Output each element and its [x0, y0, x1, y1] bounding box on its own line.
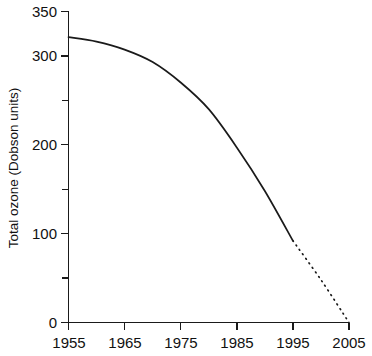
x-axis-tick-labels: 1955 1965 1975 1985 1995 2005	[52, 334, 365, 351]
observed-ozone-line	[69, 37, 293, 241]
y-axis-major-ticks	[61, 11, 69, 322]
y-tick-label-350: 350	[32, 3, 57, 20]
y-tick-label-100: 100	[32, 225, 57, 242]
y-tick-label-0: 0	[49, 314, 57, 331]
projected-ozone-line	[293, 241, 349, 323]
x-axis-ticks	[69, 323, 350, 331]
x-tick-label-1975: 1975	[164, 334, 197, 351]
y-tick-label-300: 300	[32, 47, 57, 64]
x-tick-label-1985: 1985	[220, 334, 253, 351]
y-axis-minor-ticks	[62, 100, 69, 278]
ozone-line-chart-figure: 0 100 200 300 350 1955 1965 1975 1985 19…	[0, 0, 372, 356]
x-tick-label-1955: 1955	[52, 334, 85, 351]
y-tick-label-200: 200	[32, 136, 57, 153]
x-tick-label-1965: 1965	[108, 334, 141, 351]
x-tick-label-1995: 1995	[276, 334, 309, 351]
x-tick-label-2005: 2005	[332, 334, 365, 351]
chart-canvas: 0 100 200 300 350 1955 1965 1975 1985 19…	[0, 0, 372, 356]
y-axis-tick-labels: 0 100 200 300 350	[32, 3, 57, 331]
y-axis-title: Total ozone (Dobson units)	[6, 88, 21, 249]
